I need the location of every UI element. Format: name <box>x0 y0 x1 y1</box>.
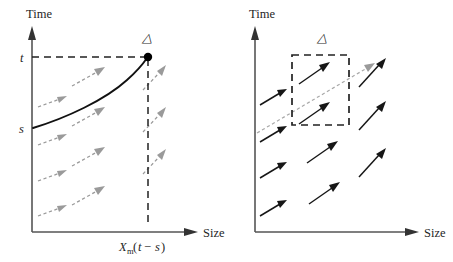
left-delta-annotation: △ <box>141 30 152 45</box>
left-x-tick-arg-op: − <box>144 240 151 254</box>
vector-arrow <box>38 96 67 107</box>
left-x-tick-paren-close: ) <box>161 240 165 254</box>
vector-arrow <box>299 62 330 84</box>
left-y-tick-t: t <box>20 51 24 65</box>
right-x-axis-label: Size <box>424 226 446 240</box>
right-delta-annotation: △ <box>316 30 327 45</box>
right-x-axis <box>255 228 419 236</box>
left-x-axis <box>32 228 198 236</box>
right-vector-field <box>260 58 386 216</box>
right-y-axis <box>251 26 259 232</box>
left-x-tick-arg-right: s <box>155 240 160 254</box>
vector-arrow <box>72 107 105 126</box>
right-y-axis-label: Time <box>249 7 275 21</box>
vector-arrow <box>143 107 166 132</box>
vector-arrow <box>307 141 338 163</box>
vector-arrow <box>260 89 287 105</box>
vector-arrow <box>143 149 166 174</box>
vector-arrow <box>72 67 105 86</box>
left-x-tick-label: X m ( t − s ) <box>118 240 165 256</box>
right-panel: Time Size <box>227 0 453 262</box>
left-x-tick-paren-open: ( <box>133 240 137 254</box>
vector-arrow <box>38 205 67 216</box>
left-x-axis-label: Size <box>203 226 225 240</box>
vector-arrow <box>359 58 386 87</box>
vector-arrow <box>260 200 287 216</box>
left-vector-field <box>38 65 166 216</box>
vector-arrow <box>38 134 67 145</box>
endpoint-dot <box>144 53 152 61</box>
growth-trajectory <box>33 58 147 128</box>
vector-arrow <box>38 170 67 181</box>
vector-arrow <box>309 182 340 204</box>
vector-arrow <box>260 162 287 178</box>
left-panel: Time Size t s X m ( t − s ) <box>0 0 227 262</box>
vector-arrow <box>359 101 386 130</box>
vector-arrow <box>72 147 105 166</box>
vector-arrow <box>359 148 386 177</box>
vector-arrow <box>143 65 166 90</box>
vector-arrow <box>72 186 105 205</box>
figure-root: Time Size t s X m ( t − s ) <box>0 0 453 262</box>
diagonal-dashed-guide <box>257 68 367 133</box>
left-y-tick-s: s <box>19 122 24 136</box>
left-y-axis-label: Time <box>26 7 52 21</box>
left-x-tick-arg-left: t <box>138 240 142 254</box>
